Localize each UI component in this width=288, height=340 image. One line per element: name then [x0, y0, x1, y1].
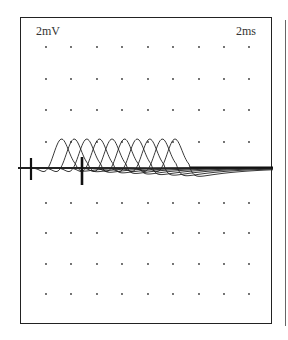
waveform-traces	[18, 139, 273, 176]
waveform-trace	[18, 139, 273, 175]
waveform-plot	[0, 0, 288, 340]
